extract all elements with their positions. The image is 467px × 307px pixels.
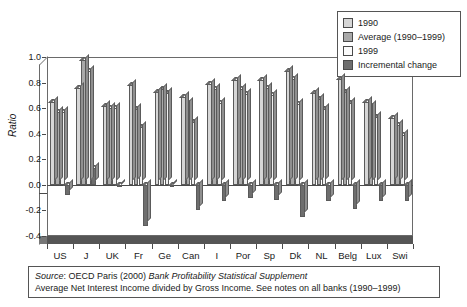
bar-dk-series4 — [300, 185, 305, 217]
legend-item-3: 1999 — [343, 44, 455, 58]
bar-side-face — [185, 91, 189, 181]
bar-side-face — [147, 179, 151, 222]
x-axis-label-us: US — [53, 251, 66, 261]
caption-line-2: Average Net Interest Income divided by G… — [35, 282, 433, 294]
bar-us-series4 — [65, 185, 70, 195]
y-axis-tick-mark — [42, 159, 46, 160]
bar-uk-series1 — [103, 106, 108, 185]
x-axis-label-dk: Dk — [290, 251, 302, 261]
bar-side-face — [299, 98, 303, 181]
bar-side-face — [168, 87, 172, 181]
x-axis-label-lux: Lux — [366, 251, 381, 261]
bar-side-face — [356, 179, 360, 205]
x-axis-label-ge: Ge — [158, 251, 171, 261]
plot-floor — [47, 236, 413, 244]
bar-side-face — [163, 83, 167, 181]
bar-side-face — [64, 106, 68, 181]
bar-side-face — [315, 87, 319, 181]
bar-i-series4 — [222, 185, 227, 202]
bar-ge-series4 — [170, 185, 175, 187]
bar-nl-series1 — [312, 93, 317, 185]
bar-swi-series1 — [390, 118, 395, 184]
bar-side-face — [268, 82, 272, 181]
x-axis-tick-mark — [361, 244, 362, 249]
bar-dk-series1 — [286, 71, 291, 185]
x-axis-label-sp: Sp — [263, 251, 275, 261]
bar-side-face — [132, 79, 136, 181]
bar-side-face — [351, 97, 355, 181]
bar-can-series4 — [196, 185, 201, 211]
legend-item-2: Average (1990–1999) — [343, 30, 455, 44]
bar-side-face — [320, 93, 324, 181]
x-axis-label-nl: NL — [315, 251, 327, 261]
x-axis-tick-mark — [282, 244, 283, 249]
bar-side-face — [189, 97, 193, 181]
bar-por-series4 — [248, 185, 253, 198]
bar-side-face — [216, 83, 220, 181]
bar-side-face — [80, 82, 84, 181]
y-axis-tick-mark — [42, 108, 46, 109]
y-axis-label: Ratio — [7, 114, 18, 137]
bar-side-face — [368, 96, 372, 181]
y-axis-tick-mark — [42, 57, 46, 58]
legend-swatch-icon — [343, 32, 353, 42]
bar-i-series1 — [207, 84, 212, 185]
bar-side-face — [199, 179, 203, 207]
bar-side-face — [325, 103, 329, 180]
x-axis-tick-mark — [47, 244, 48, 249]
x-axis-tick-mark — [125, 244, 126, 249]
bar-side-face — [273, 89, 277, 181]
caption-publication-title: Bank Profitability Statistical Supplemen… — [149, 271, 308, 281]
caption-source-mid: : OECD Paris (2000) — [64, 271, 149, 281]
x-axis-label-belg: Belg — [338, 251, 357, 261]
x-axis-label-swi: Swi — [392, 251, 407, 261]
y-axis-tick-mark — [42, 210, 46, 211]
x-axis-tick-mark — [204, 244, 205, 249]
bar-side-face — [106, 100, 110, 181]
legend-swatch-icon — [343, 18, 353, 28]
bar-nl-series4 — [326, 185, 331, 202]
bar-fr-series1 — [129, 85, 134, 185]
x-axis-label-can: Can — [182, 251, 199, 261]
bar-side-face — [237, 74, 241, 181]
bar-side-face — [221, 97, 225, 181]
x-axis-label-por: Por — [236, 251, 251, 261]
legend-swatch-icon — [343, 46, 353, 56]
x-axis-label-fr: Fr — [134, 251, 143, 261]
x-axis-tick-mark — [413, 244, 414, 249]
bank-profitability-chart-figure: 1990Average (1990–1999)1999Incremental c… — [0, 0, 467, 307]
x-axis-tick-mark — [256, 244, 257, 249]
bar-sp-series4 — [274, 185, 279, 200]
bar-j-series1 — [76, 88, 81, 185]
x-axis-label-i: I — [216, 251, 219, 261]
caption-line-1: Source: OECD Paris (2000) Bank Profitabi… — [35, 270, 433, 282]
source-caption: Source: OECD Paris (2000) Bank Profitabi… — [28, 266, 440, 298]
caption-source-word: Source — [35, 271, 64, 281]
bar-ge-series1 — [155, 92, 160, 185]
zero-baseline-wall — [39, 193, 47, 194]
bar-lux-series1 — [364, 102, 369, 185]
y-axis-tick-mark — [42, 134, 46, 135]
bar-fr-series4 — [143, 185, 148, 226]
bar-side-face — [247, 88, 251, 181]
y-axis-tick-mark — [42, 236, 46, 237]
bar-side-face — [394, 112, 398, 180]
legend-item-label: Incremental change — [358, 61, 437, 70]
bar-side-face — [142, 121, 146, 181]
bar-swi-series4 — [405, 185, 410, 202]
bar-side-face — [90, 65, 94, 181]
bar-side-face — [263, 74, 267, 181]
bar-side-face — [304, 179, 308, 213]
bar-sp-series1 — [259, 80, 264, 185]
bar-side-face — [137, 103, 141, 180]
bar-side-face — [242, 83, 246, 181]
bar-side-face — [111, 102, 115, 181]
bar-side-face — [341, 73, 345, 181]
bar-side-face — [404, 129, 408, 181]
plot-area: 1.00.80.60.40.20.0-0.2-0.4 USJUKFrGeCanI… — [47, 57, 413, 236]
y-axis-tick-mark — [42, 83, 46, 84]
bar-side-face — [85, 54, 89, 181]
x-axis-tick-mark — [152, 244, 153, 249]
bar-side-face — [59, 106, 63, 181]
legend-item-4: Incremental change — [343, 58, 455, 72]
